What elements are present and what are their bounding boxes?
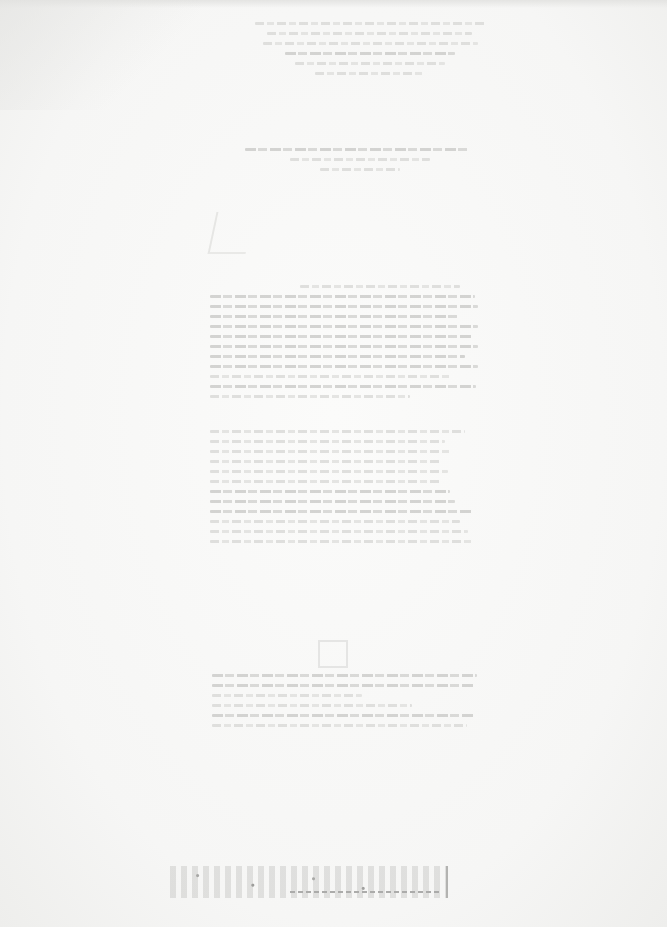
body-line [210, 510, 472, 513]
header-line [315, 72, 425, 75]
body-line [210, 450, 450, 453]
body-line [210, 325, 478, 328]
scanned-page [0, 0, 667, 927]
body-line [210, 460, 440, 463]
body-line [300, 285, 460, 288]
header-line [267, 32, 472, 35]
bottom-line [212, 704, 412, 707]
title-line [245, 148, 470, 151]
body-line [210, 345, 478, 348]
body-line [210, 295, 475, 298]
body-line [210, 430, 465, 433]
body-line [210, 530, 468, 533]
bottom-line [212, 714, 474, 717]
title-block [245, 148, 475, 178]
body-line [210, 395, 410, 398]
title-line [320, 168, 400, 171]
body-line [210, 540, 472, 543]
body-text-block-2 [210, 430, 480, 550]
bottom-line [212, 724, 467, 727]
bottom-text-block [212, 674, 482, 734]
body-line [210, 365, 478, 368]
body-line [210, 500, 455, 503]
header-line [255, 22, 485, 25]
body-text-block-1 [210, 285, 480, 405]
bottom-line [212, 694, 362, 697]
body-line [210, 490, 450, 493]
bottom-line [212, 674, 477, 677]
body-line [210, 355, 465, 358]
header-block [255, 22, 485, 82]
body-line [210, 305, 478, 308]
body-line [210, 385, 476, 388]
bottom-line [212, 684, 474, 687]
body-line [210, 470, 448, 473]
scan-edge-shadow-left [0, 0, 200, 110]
header-line [285, 52, 455, 55]
footer-stamp [170, 866, 448, 898]
title-line [290, 158, 430, 161]
body-line [210, 375, 450, 378]
faint-logo-mark [208, 212, 255, 254]
faint-box-icon [318, 640, 348, 668]
header-line [295, 62, 445, 65]
stamp-underline [290, 891, 440, 893]
body-line [210, 480, 442, 483]
body-line [210, 315, 460, 318]
body-line [210, 520, 460, 523]
body-line [210, 440, 445, 443]
header-line [263, 42, 478, 45]
body-line [210, 335, 472, 338]
